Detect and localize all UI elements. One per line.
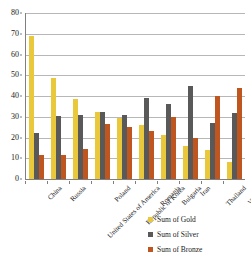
y-axis-tickmark — [20, 33, 22, 34]
y-axis-tickmark — [20, 54, 22, 55]
bar-group — [73, 13, 88, 179]
y-axis-tick-label: 60 — [11, 51, 19, 59]
y-axis-tick-label: 10 — [11, 154, 19, 162]
x-axis-tickmark — [25, 181, 26, 184]
legend-swatch-silver — [148, 232, 153, 237]
y-axis-tick-label: 40 — [11, 92, 19, 100]
bar-bronze[interactable] — [61, 155, 66, 179]
y-axis-tickmark — [20, 116, 22, 117]
y-axis-tickmark — [20, 13, 22, 14]
bar-group — [95, 13, 110, 179]
y-axis: 80706050403020100 — [0, 13, 22, 180]
x-axis-tickmark — [69, 181, 70, 184]
bar-group — [117, 13, 132, 179]
bar-group — [51, 13, 66, 179]
x-axis-tick-label: Iran — [199, 185, 212, 198]
y-axis-tickmark — [20, 137, 22, 138]
x-axis-tickmark — [135, 181, 136, 184]
bar-group — [29, 13, 44, 179]
bar-chart: 80706050403020100 ChinaRussiaUnited Stat… — [0, 0, 251, 262]
plot-area — [25, 13, 245, 180]
legend-item[interactable]: Sum of Gold — [148, 212, 248, 227]
bar-group — [161, 13, 176, 179]
x-axis-tick-label: Poland — [114, 185, 133, 204]
legend-item[interactable]: Sum of Silver — [148, 227, 248, 242]
x-axis-tickmark — [47, 181, 48, 184]
x-axis-tickmark — [223, 181, 224, 184]
bars-layer — [25, 13, 245, 180]
x-axis-tickmark — [157, 181, 158, 184]
x-axis-tickmark — [201, 181, 202, 184]
x-axis-tickmark — [113, 181, 114, 184]
x-axis-tick-label: Thailand — [225, 185, 248, 208]
y-axis-tickmark — [20, 179, 22, 180]
bar-group — [205, 13, 220, 179]
bar-group — [227, 13, 242, 179]
y-axis-tickmark — [20, 96, 22, 97]
bar-group — [183, 13, 198, 179]
y-axis-tick-label: 50 — [11, 71, 19, 79]
x-axis-tickmark — [179, 181, 180, 184]
y-axis-tick-label: 0 — [15, 175, 19, 183]
bar-bronze[interactable] — [193, 138, 198, 180]
bar-bronze[interactable] — [149, 131, 154, 179]
legend-item-label: Sum of Gold — [157, 216, 196, 224]
bar-bronze[interactable] — [39, 155, 44, 179]
legend-swatch-gold — [148, 217, 153, 222]
y-axis-tick-label: 20 — [11, 134, 19, 142]
bar-bronze[interactable] — [237, 88, 242, 179]
bar-group — [139, 13, 154, 179]
y-axis-tickmark — [20, 75, 22, 76]
y-axis-tickmark — [20, 158, 22, 159]
x-axis-tick-label: Vietnam — [247, 185, 251, 207]
x-axis-tickmark — [91, 181, 92, 184]
bar-bronze[interactable] — [215, 96, 220, 179]
x-axis-tick-label: Russia — [69, 185, 87, 203]
y-axis-tick-label: 30 — [11, 113, 19, 121]
legend-item[interactable]: Sum of Bronze — [148, 242, 248, 257]
legend-swatch-bronze — [148, 247, 153, 252]
x-axis-tick-label: China — [47, 185, 64, 202]
y-axis-tick-label: 70 — [11, 30, 19, 38]
y-axis-tick-label: 80 — [11, 9, 19, 17]
bar-bronze[interactable] — [83, 149, 88, 179]
legend-item-label: Sum of Bronze — [157, 246, 202, 254]
legend: Sum of GoldSum of SilverSum of Bronze — [148, 212, 248, 257]
bar-bronze[interactable] — [127, 127, 132, 179]
bar-bronze[interactable] — [171, 117, 176, 179]
legend-item-label: Sum of Silver — [157, 231, 199, 239]
bar-bronze[interactable] — [105, 124, 110, 179]
